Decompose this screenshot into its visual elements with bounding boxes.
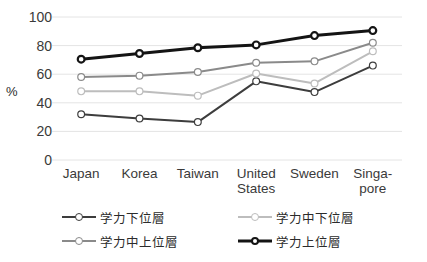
data-point-marker [369,27,376,34]
legend-swatch-icon [238,210,272,224]
data-point-marker [311,32,318,39]
series-line [81,43,373,77]
data-point-marker [369,48,376,55]
series-lines [81,31,373,123]
data-point-marker [78,74,85,81]
legend-label: 学力中上位層 [100,232,178,251]
data-point-marker [78,111,85,118]
x-tick-label: Singa- pore [344,166,402,196]
legend-item[interactable]: 学力中上位層 [62,231,178,251]
legend-marker [251,237,259,245]
data-point-marker [369,62,376,69]
data-point-marker [253,78,260,85]
data-point-marker [311,58,318,65]
data-point-marker [136,72,143,79]
legend-label: 学力下位層 [100,208,165,227]
data-point-marker [194,69,201,76]
legend-swatch-icon [62,210,96,224]
legend-marker [75,213,83,221]
legend-marker [75,237,83,245]
data-point-marker [194,92,201,99]
x-tick-label: Japan [52,166,110,181]
data-point-marker [194,44,201,51]
legend-label: 学力上位層 [276,232,341,251]
legend-marker [251,213,259,221]
data-point-marker [136,88,143,95]
data-point-marker [253,70,260,77]
legend-item[interactable]: 学力中下位層 [238,207,354,227]
data-point-marker [136,115,143,122]
legend-item[interactable]: 学力上位層 [238,231,341,251]
data-point-marker [136,50,143,57]
gridlines [52,17,402,160]
chart-legend: 学力下位層学力中下位層学力中上位層学力上位層 [0,205,427,257]
x-tick-label: United States [227,166,285,196]
data-point-marker [311,80,318,87]
data-point-marker [253,41,260,48]
x-tick-label: Sweden [285,166,343,181]
legend-swatch-icon [62,234,96,248]
legend-swatch-icon [238,234,272,248]
line-chart: % 020406080100 JapanKoreaTaiwanUnited St… [0,0,427,262]
data-point-marker [253,59,260,66]
x-tick-label: Korea [110,166,168,181]
data-point-marker [78,88,85,95]
data-point-marker [194,119,201,126]
series-line [81,51,373,95]
legend-label: 学力中下位層 [276,208,354,227]
legend-item[interactable]: 学力下位層 [62,207,165,227]
x-tick-label: Taiwan [169,166,227,181]
series-line [81,31,373,60]
data-point-marker [311,89,318,96]
data-point-marker [369,39,376,46]
data-point-marker [78,56,85,63]
